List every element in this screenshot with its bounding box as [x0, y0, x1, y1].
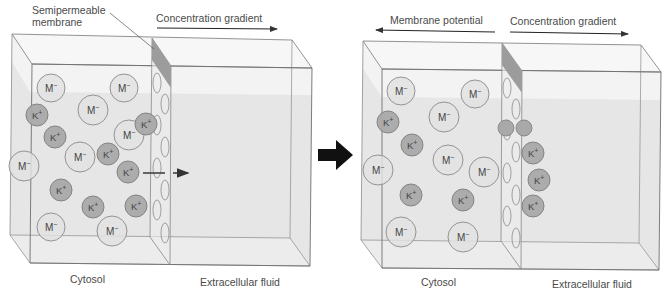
cation-k-plus: K+ — [50, 179, 72, 201]
cation-in-pore — [516, 120, 532, 136]
semipermeable-membrane-label: Semipermeable membrane — [32, 4, 106, 28]
semipermeable-label-line1: Semipermeable — [32, 4, 106, 16]
anion-m-minus: M− — [461, 80, 489, 108]
diagram-stage: M−M−M−M−M−M−M−M−K+K+K+K+K+K+K+K+ M− — [0, 0, 667, 292]
cation-k-plus: K+ — [522, 195, 544, 217]
cation-k-plus: K+ — [125, 195, 147, 217]
cation-k-plus: K+ — [44, 126, 66, 148]
right-concentration-gradient-label: Concentration gradient — [510, 15, 616, 27]
anion-m-minus: M− — [97, 216, 127, 246]
cation-k-plus: K+ — [400, 184, 422, 206]
anion-m-minus: M− — [110, 74, 138, 102]
left-concentration-gradient-arrow — [157, 28, 277, 29]
left-semipermeable-membrane — [150, 38, 171, 265]
cation-k-plus: K+ — [117, 161, 139, 183]
transition-arrow-icon — [318, 140, 353, 170]
left-concentration-gradient-label: Concentration gradient — [156, 12, 262, 24]
cation-in-pore — [498, 120, 514, 136]
anion-m-minus: M− — [433, 145, 463, 175]
potassium-equilibrium-diagram: M−M−M−M−M−M−M−M−K+K+K+K+K+K+K+K+ M− — [0, 0, 667, 292]
right-concentration-gradient-arrow — [510, 32, 628, 34]
cation-k-plus: K+ — [452, 189, 474, 211]
anion-m-minus: M− — [78, 95, 108, 125]
cation-k-plus: K+ — [26, 104, 48, 126]
anion-m-minus: M− — [65, 142, 95, 172]
anion-m-minus: M− — [469, 157, 499, 187]
cation-k-plus: K+ — [401, 134, 423, 156]
cation-k-plus: K+ — [377, 111, 399, 133]
anion-m-minus: M− — [429, 102, 459, 132]
anion-m-minus: M− — [387, 77, 415, 105]
anion-m-minus: M− — [386, 217, 416, 247]
left-cytosol-label: Cytosol — [70, 273, 105, 285]
anion-m-minus: M− — [448, 222, 478, 252]
cation-k-plus: K+ — [522, 142, 544, 164]
right-cytosol-label: Cytosol — [421, 276, 456, 288]
cation-k-plus: K+ — [82, 196, 104, 218]
cation-k-plus: K+ — [135, 113, 157, 135]
semipermeable-label-line2: membrane — [32, 16, 106, 28]
membrane-potential-arrow — [376, 30, 495, 32]
membrane-potential-label: Membrane potential — [390, 14, 483, 26]
anion-m-minus: M− — [37, 213, 65, 241]
left-extracellular-fluid-label: Extracellular fluid — [200, 276, 280, 288]
anion-m-minus: M− — [363, 155, 393, 185]
anion-m-minus: M− — [9, 151, 39, 181]
cation-k-plus: K+ — [97, 143, 119, 165]
anion-m-minus: M− — [37, 74, 65, 102]
right-semipermeable-membrane — [501, 43, 522, 269]
cation-k-plus: K+ — [528, 169, 550, 191]
right-extracellular-fluid-label: Extracellular fluid — [552, 278, 632, 290]
